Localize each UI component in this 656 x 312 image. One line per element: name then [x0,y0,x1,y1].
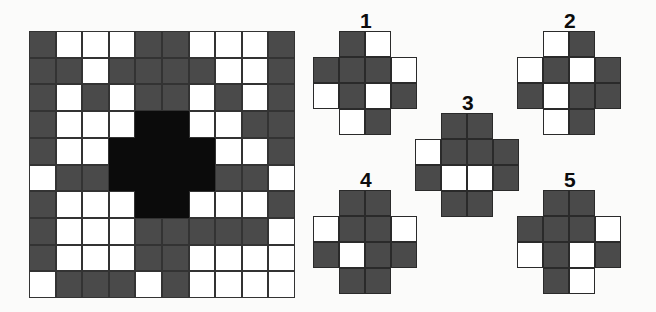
grid-cell-r7-c9[interactable] [268,218,295,245]
grid-cell-r0-c9[interactable] [268,31,295,58]
option-3-cell-r0-c2[interactable] [467,113,493,139]
option-1-cell-r0-c1[interactable] [339,31,365,57]
grid-cell-r8-c6[interactable] [189,245,216,272]
grid-cell-r6-c3[interactable] [109,191,136,218]
option-2-cell-r2-c2[interactable] [569,83,595,109]
grid-cell-r2-c9[interactable] [268,84,295,111]
grid-cell-r2-c8[interactable] [242,84,269,111]
option-2-cell-r1-c1[interactable] [543,57,569,83]
grid-cell-r4-c7[interactable] [215,138,242,165]
option-3-cell-r1-c3[interactable] [493,139,519,165]
grid-cell-r9-c8[interactable] [242,271,269,298]
option-5-cell-r1-c2[interactable] [569,216,595,242]
grid-cell-r3-c2[interactable] [82,111,109,138]
option-5-cell-r3-c1[interactable] [543,268,569,294]
grid-cell-r3-c7[interactable] [215,111,242,138]
grid-cell-r3-c9[interactable] [268,111,295,138]
grid-cell-r9-c5[interactable] [162,271,189,298]
option-1-cell-r1-c1[interactable] [339,57,365,83]
grid-cell-r5-c2[interactable] [82,165,109,192]
option-1-cell-r1-c2[interactable] [365,57,391,83]
grid-cell-r2-c3[interactable] [109,84,136,111]
option-3-cell-r2-c1[interactable] [441,165,467,191]
grid-cell-r6-c8[interactable] [242,191,269,218]
grid-cell-r0-c7[interactable] [215,31,242,58]
grid-cell-r4-c9[interactable] [268,138,295,165]
grid-cell-r5-c5[interactable] [162,165,189,192]
grid-cell-r8-c1[interactable] [56,245,83,272]
grid-cell-r7-c7[interactable] [215,218,242,245]
option-1-cell-r3-c2[interactable] [365,109,391,135]
grid-cell-r3-c4[interactable] [135,111,162,138]
grid-cell-r8-c5[interactable] [162,245,189,272]
grid-cell-r9-c9[interactable] [268,271,295,298]
option-4-cell-r1-c2[interactable] [365,216,391,242]
grid-cell-r7-c2[interactable] [82,218,109,245]
option-4-cell-r2-c2[interactable] [365,242,391,268]
grid-cell-r7-c4[interactable] [135,218,162,245]
grid-cell-r6-c0[interactable] [29,191,56,218]
grid-cell-r9-c3[interactable] [109,271,136,298]
option-5-cell-r0-c2[interactable] [569,190,595,216]
grid-cell-r8-c7[interactable] [215,245,242,272]
grid-cell-r2-c0[interactable] [29,84,56,111]
grid-cell-r1-c7[interactable] [215,58,242,85]
grid-cell-r9-c2[interactable] [82,271,109,298]
grid-cell-r6-c7[interactable] [215,191,242,218]
option-3-cell-r1-c1[interactable] [441,139,467,165]
grid-cell-r7-c8[interactable] [242,218,269,245]
grid-cell-r1-c0[interactable] [29,58,56,85]
answer-option-grid-1[interactable] [313,31,417,135]
grid-cell-r5-c1[interactable] [56,165,83,192]
option-4-cell-r3-c1[interactable] [339,268,365,294]
grid-cell-r0-c1[interactable] [56,31,83,58]
grid-cell-r4-c5[interactable] [162,138,189,165]
option-5-cell-r1-c0[interactable] [517,216,543,242]
answer-option-grid-5[interactable] [517,190,621,294]
grid-cell-r5-c9[interactable] [268,165,295,192]
option-4-cell-r0-c1[interactable] [339,190,365,216]
option-1-cell-r2-c1[interactable] [339,83,365,109]
option-4-cell-r2-c3[interactable] [391,242,417,268]
grid-cell-r0-c0[interactable] [29,31,56,58]
answer-option-grid-2[interactable] [517,31,621,135]
option-3-cell-r2-c2[interactable] [467,165,493,191]
grid-cell-r9-c1[interactable] [56,271,83,298]
option-4-cell-r2-c1[interactable] [339,242,365,268]
grid-cell-r8-c8[interactable] [242,245,269,272]
grid-cell-r6-c2[interactable] [82,191,109,218]
grid-cell-r7-c1[interactable] [56,218,83,245]
option-4-cell-r3-c2[interactable] [365,268,391,294]
grid-cell-r8-c9[interactable] [268,245,295,272]
grid-cell-r8-c0[interactable] [29,245,56,272]
grid-cell-r1-c4[interactable] [135,58,162,85]
grid-cell-r4-c1[interactable] [56,138,83,165]
grid-cell-r5-c7[interactable] [215,165,242,192]
grid-cell-r7-c0[interactable] [29,218,56,245]
grid-cell-r1-c2[interactable] [82,58,109,85]
grid-cell-r4-c0[interactable] [29,138,56,165]
grid-cell-r6-c6[interactable] [189,191,216,218]
grid-cell-r1-c1[interactable] [56,58,83,85]
grid-cell-r1-c6[interactable] [189,58,216,85]
answer-option-grid-4[interactable] [313,190,417,294]
grid-cell-r1-c9[interactable] [268,58,295,85]
option-3-cell-r3-c1[interactable] [441,191,467,217]
grid-cell-r6-c4[interactable] [135,191,162,218]
option-4-cell-r1-c0[interactable] [313,216,339,242]
option-5-cell-r2-c3[interactable] [595,242,621,268]
option-3-cell-r1-c0[interactable] [415,139,441,165]
option-5-cell-r1-c1[interactable] [543,216,569,242]
grid-cell-r9-c0[interactable] [29,271,56,298]
grid-cell-r5-c4[interactable] [135,165,162,192]
grid-cell-r6-c5[interactable] [162,191,189,218]
option-3-cell-r0-c1[interactable] [441,113,467,139]
grid-cell-r9-c6[interactable] [189,271,216,298]
grid-cell-r9-c7[interactable] [215,271,242,298]
grid-cell-r5-c6[interactable] [189,165,216,192]
grid-cell-r5-c0[interactable] [29,165,56,192]
grid-cell-r5-c3[interactable] [109,165,136,192]
option-4-cell-r2-c0[interactable] [313,242,339,268]
option-2-cell-r3-c1[interactable] [543,109,569,135]
grid-cell-r3-c0[interactable] [29,111,56,138]
